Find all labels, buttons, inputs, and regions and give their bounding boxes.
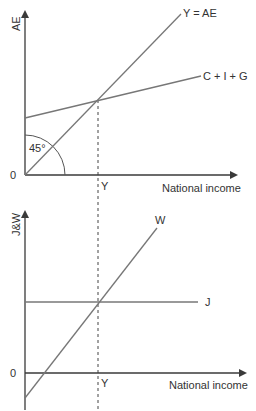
top-y-axis-label: AE [10,16,22,31]
income-expenditure-diagram: AE 0 Y National income 45° Y = AE C + I … [0,0,256,411]
top-origin-label: 0 [10,169,16,181]
angle-label: 45° [29,142,46,154]
w-label: W [155,214,166,226]
cig-line [25,76,201,118]
top-equilibrium-label: Y [101,180,109,192]
bottom-equilibrium-label: Y [101,377,109,389]
bottom-x-axis-label: National income [169,379,248,391]
bottom-panel: J&W 0 Y National income W J [10,212,248,410]
y-equals-ae-line [25,14,181,175]
j-label: J [205,296,211,308]
top-x-axis-label: National income [162,182,241,194]
cig-label: C + I + G [203,70,248,82]
top-panel: AE 0 Y National income 45° Y = AE C + I … [10,7,248,411]
y-equals-ae-label: Y = AE [183,7,217,19]
bottom-y-axis-label: J&W [10,212,22,236]
bottom-origin-label: 0 [10,367,16,379]
